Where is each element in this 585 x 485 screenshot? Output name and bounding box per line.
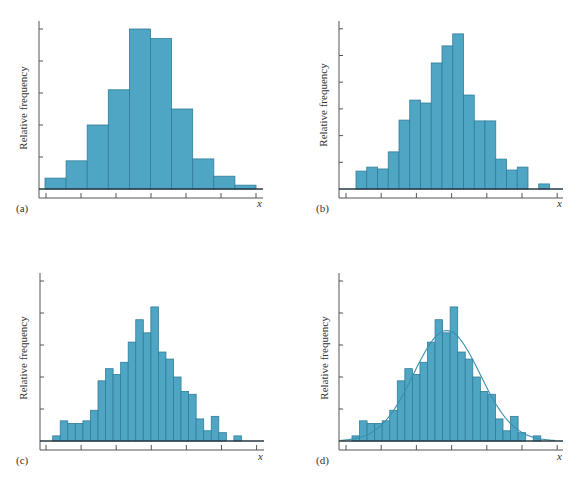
histogram-bar	[465, 359, 473, 441]
y-axis-label: Relative frequency	[17, 316, 29, 400]
panel-label: (b)	[316, 202, 329, 215]
histogram-bar	[204, 431, 212, 441]
histogram-bar	[98, 381, 106, 441]
y-axis-label: Relative frequency	[318, 316, 330, 400]
histogram-bar	[219, 433, 227, 441]
histogram-bar	[113, 374, 121, 441]
histogram-bar	[367, 423, 375, 441]
histogram-bar	[453, 34, 464, 189]
plot-area	[339, 273, 563, 450]
histogram-bar	[128, 342, 136, 441]
histogram-bar	[166, 359, 174, 441]
histogram-bar	[435, 320, 443, 441]
histogram-figure: (a) x Relative frequency (b) x Relative …	[0, 0, 585, 485]
histogram-bar	[474, 121, 485, 189]
histogram-bar	[83, 421, 91, 441]
histogram-bar	[234, 436, 242, 441]
panel-a: (a) x Relative frequency	[16, 21, 263, 215]
x-axis-label: x	[256, 197, 262, 209]
histogram-bar	[151, 39, 172, 189]
histogram-bar	[442, 46, 453, 189]
histogram-bar	[172, 109, 193, 189]
histogram-bar	[412, 374, 420, 441]
histogram-bar	[428, 342, 436, 441]
histogram-bar	[495, 419, 503, 441]
plot-area	[40, 273, 264, 450]
histogram-bar	[196, 419, 204, 441]
histogram-bar	[174, 377, 182, 441]
y-axis-label: Relative frequency	[317, 63, 329, 147]
histogram-bar	[121, 362, 129, 441]
histogram-bar	[87, 125, 108, 189]
histogram-bar	[485, 121, 496, 189]
histogram-bar	[214, 176, 235, 189]
histogram-bar	[517, 167, 528, 189]
histogram-bar	[431, 63, 442, 189]
histogram-bar	[106, 369, 114, 441]
histogram-bar	[399, 120, 410, 189]
panel-label: (c)	[16, 454, 29, 467]
histogram-bar	[53, 436, 61, 441]
panel-c: (c) x Relative frequency	[16, 273, 264, 467]
histogram-bar	[539, 184, 550, 189]
histogram-bar	[410, 100, 421, 189]
histogram-bar	[143, 333, 151, 441]
histogram-bar	[360, 421, 368, 441]
histogram-bar	[450, 307, 458, 441]
x-axis-label: x	[257, 450, 263, 462]
histogram-bar	[68, 423, 76, 441]
histogram-bar	[397, 381, 405, 441]
histogram-bar	[193, 159, 214, 189]
histogram-bar	[66, 161, 87, 189]
histogram-bar	[90, 410, 98, 441]
panel-b: (b) x Relative frequency	[316, 21, 563, 215]
histogram-bar	[507, 170, 518, 189]
histogram-bar	[420, 362, 428, 441]
histogram-bar	[151, 307, 159, 441]
histogram-bar	[189, 394, 197, 441]
histogram-bar	[136, 320, 144, 441]
histogram-bar	[181, 391, 189, 441]
histogram-bar	[45, 178, 66, 189]
histogram-bar	[464, 95, 475, 189]
histogram-bar	[108, 90, 129, 189]
histogram-bar	[388, 152, 399, 189]
histogram-bar	[129, 29, 150, 189]
x-axis-label: x	[556, 197, 562, 209]
histogram-bar	[480, 391, 488, 441]
histogram-bar	[158, 352, 166, 441]
histogram-bar	[367, 167, 378, 189]
plot-area	[39, 21, 263, 198]
y-axis-label: Relative frequency	[17, 66, 29, 150]
histogram-bar	[421, 103, 432, 189]
histogram-bar	[503, 431, 511, 441]
histogram-bar	[356, 171, 367, 189]
histogram-bar	[378, 169, 389, 189]
histogram-bar	[443, 333, 451, 441]
histogram-bar	[60, 421, 68, 441]
panel-label: (d)	[316, 454, 329, 467]
histogram-bar	[75, 423, 83, 441]
panel-label: (a)	[16, 202, 29, 215]
panel-d: (d) x Relative frequency	[316, 273, 563, 467]
x-axis-label: x	[556, 450, 562, 462]
histogram-bar	[473, 377, 481, 441]
plot-area	[339, 21, 563, 198]
histogram-bar	[458, 352, 466, 441]
histogram-bar	[496, 159, 507, 189]
histogram-bar	[211, 416, 219, 441]
